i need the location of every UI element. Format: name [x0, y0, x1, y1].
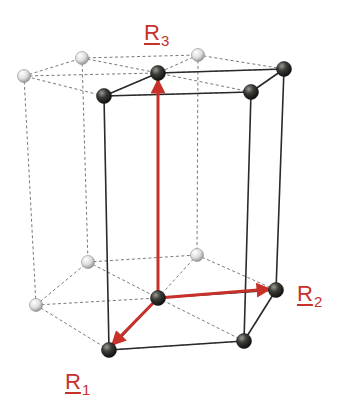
- atom-top-back-right: [192, 49, 205, 62]
- label-r2: R2: [297, 283, 322, 305]
- hex-edge: [24, 58, 82, 76]
- center-spoke: [158, 298, 244, 341]
- hex-edge: [24, 76, 104, 96]
- atom-bottom-front-left: [102, 343, 117, 358]
- hex-edge: [82, 55, 198, 58]
- atom-top-center: [151, 66, 166, 81]
- label-r3: R3: [144, 22, 169, 44]
- vertical-hidden-edge: [82, 58, 88, 262]
- atom-top-front-right: [244, 85, 259, 100]
- cell-vertical-edge: [104, 96, 109, 350]
- cell-edge: [104, 92, 251, 96]
- center-spoke: [158, 73, 251, 92]
- atom-top-back-left: [76, 52, 89, 65]
- vertical-hidden-edge: [24, 76, 36, 305]
- light-atoms: [18, 49, 205, 312]
- hex-edge: [198, 55, 284, 69]
- hex-edge: [36, 305, 109, 350]
- vector-r2-arrow: [158, 289, 270, 298]
- atom-bottom-front-right: [237, 334, 252, 349]
- lattice-svg: [0, 0, 341, 411]
- center-spoke: [158, 255, 197, 298]
- unit-cell-edges: [104, 69, 284, 350]
- center-spoke: [36, 298, 158, 305]
- atom-top-front-left: [97, 89, 112, 104]
- atom-bottom-center: [151, 291, 166, 306]
- center-spoke: [24, 73, 158, 76]
- hex-edge: [36, 262, 88, 305]
- hexagonal-lattice-diagram: R3 R2 R1: [0, 0, 341, 411]
- primitive-vectors: [112, 80, 270, 345]
- atom-bottom-far-left: [30, 299, 43, 312]
- cell-vertical-edge: [244, 92, 251, 341]
- cell-edge: [244, 290, 276, 341]
- hex-edge: [197, 255, 276, 290]
- vector-r1-arrow: [112, 298, 158, 345]
- label-r1: R1: [65, 371, 90, 393]
- center-spoke: [82, 58, 158, 73]
- vertical-hidden-edge: [197, 55, 198, 255]
- cell-edge: [158, 69, 284, 73]
- atom-top-right: [277, 62, 292, 77]
- cell-vertical-edge: [276, 69, 284, 290]
- cell-edge: [109, 341, 244, 350]
- hex-edge: [88, 255, 197, 262]
- atom-bottom-back-left: [82, 256, 95, 269]
- center-spoke: [88, 262, 158, 298]
- atom-top-far-left: [18, 70, 31, 83]
- atom-bottom-back-right: [191, 249, 204, 262]
- cell-edge: [104, 73, 158, 96]
- atom-bottom-right: [269, 283, 284, 298]
